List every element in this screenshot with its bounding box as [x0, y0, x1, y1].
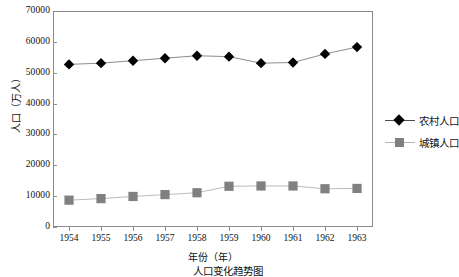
data-point-urban — [96, 194, 105, 203]
data-point-urban — [64, 196, 73, 205]
data-point-urban — [128, 192, 137, 201]
series-line-rural — [69, 47, 357, 64]
data-point-urban — [288, 181, 297, 190]
data-point-rural — [96, 58, 106, 68]
figure-caption: 人口变化趋势图 — [0, 266, 455, 277]
chart-legend: 农村人口 城镇人口 — [385, 110, 459, 154]
data-point-urban — [192, 188, 201, 197]
legend-label-urban: 城镇人口 — [419, 138, 459, 149]
data-point-rural — [192, 51, 202, 61]
legend-label-rural: 农村人口 — [419, 116, 459, 127]
urban-marker-icon — [385, 137, 415, 149]
legend-item-urban: 城镇人口 — [385, 132, 459, 154]
data-point-rural — [64, 59, 74, 69]
data-point-urban — [256, 181, 265, 190]
data-point-rural — [320, 49, 330, 59]
data-point-urban — [320, 184, 329, 193]
data-point-urban — [160, 190, 169, 199]
data-point-rural — [128, 55, 138, 65]
data-point-rural — [160, 53, 170, 63]
data-point-rural — [256, 58, 266, 68]
data-point-urban — [352, 184, 361, 193]
data-point-rural — [352, 42, 362, 52]
data-point-rural — [224, 51, 234, 61]
rural-marker-icon — [385, 115, 415, 127]
data-point-urban — [224, 182, 233, 191]
legend-item-rural: 农村人口 — [385, 110, 459, 132]
data-point-rural — [288, 57, 298, 67]
series-line-urban — [69, 186, 357, 200]
